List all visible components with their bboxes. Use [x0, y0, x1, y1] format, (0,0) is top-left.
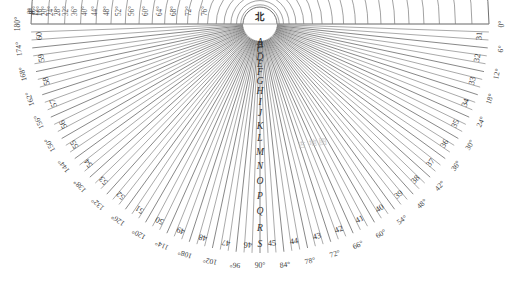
top-degree-label-r18: 72°: [187, 6, 194, 16]
ring-letter-G: G: [257, 77, 264, 87]
ring-letter-R: R: [257, 223, 263, 233]
top-degree-label-r9: 36°: [72, 6, 79, 16]
outer-degree-label-30: 180°: [14, 17, 22, 31]
north-label: 北: [255, 12, 265, 22]
outer-degree-label-0: 0°: [498, 21, 506, 28]
outer-cell-number-46: 46: [244, 240, 253, 249]
ring-letter-Q: Q: [257, 207, 264, 217]
outer-degree-label-13: 78°: [304, 256, 316, 266]
ring-letter-N: N: [257, 161, 263, 171]
ring-letter-I: I: [258, 97, 261, 107]
outer-degree-label-14: 84°: [280, 260, 291, 269]
top-degree-label-r7: 28°: [55, 6, 62, 16]
outer-degree-label-2: 12°: [492, 68, 502, 80]
top-degree-label-r12: 48°: [104, 6, 111, 16]
outer-degree-label-16: 96°: [229, 260, 240, 269]
outer-cell-number-31: 31: [476, 31, 485, 40]
top-degree-label-r17: 68°: [172, 6, 179, 16]
top-degree-label-r16: 64°: [157, 6, 164, 16]
ring-letter-A: A: [257, 37, 263, 47]
ring-letter-L: L: [257, 134, 262, 144]
top-degree-label-r10: 40°: [82, 6, 89, 16]
outer-degree-label-15: 90°: [255, 262, 266, 270]
top-degree-label-r14: 56°: [129, 6, 136, 16]
ring-letter-J: J: [258, 109, 262, 119]
top-degree-label-r8: 32°: [63, 6, 70, 16]
ring-letter-M: M: [256, 147, 264, 157]
outer-degree-label-29: 174°: [15, 42, 24, 57]
top-degree-label-r19: 76°: [202, 6, 209, 16]
top-degree-label-r13: 52°: [116, 6, 123, 16]
ring-letter-K: K: [257, 121, 263, 131]
outer-cell-number-60: 60: [35, 31, 44, 40]
outer-degree-label-1: 6°: [497, 45, 505, 53]
ring-letter-O: O: [257, 176, 264, 186]
outer-degree-label-17: 102°: [202, 255, 218, 265]
ring-letter-H: H: [257, 86, 264, 96]
top-degree-label-r11: 44°: [93, 6, 100, 16]
ring-letter-S: S: [258, 240, 263, 250]
outer-cell-number-45: 45: [267, 240, 276, 249]
star-chart-figure: 北 古 地 图 0°4°8°12°16°20°24°28°32°36°40°44…: [0, 0, 515, 298]
top-degree-label-r15: 60°: [143, 6, 150, 16]
outer-cell-number-47: 47: [221, 237, 231, 247]
ring-letter-P: P: [257, 191, 263, 201]
